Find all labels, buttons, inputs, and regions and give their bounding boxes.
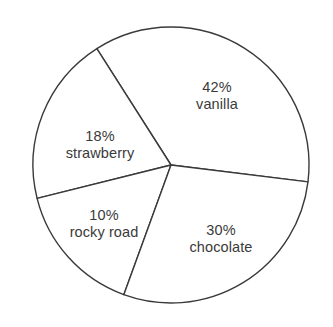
- pie-chart-canvas: [0, 0, 333, 327]
- pie-slice-group: [33, 27, 309, 303]
- pie-chart: 42% vanilla 18% strawberry 10% rocky roa…: [0, 0, 333, 327]
